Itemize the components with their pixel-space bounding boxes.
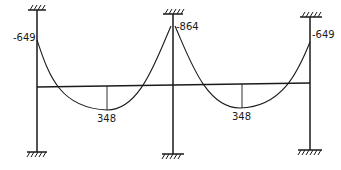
moment-label-left-midspan: 348 — [97, 113, 116, 124]
moment-label-middle-support: -864 — [176, 21, 199, 32]
moment-label-left-support: -649 — [13, 32, 36, 43]
top-fixed-support-right — [300, 12, 322, 17]
moment-label-right-midspan: 348 — [232, 111, 251, 122]
moment-label-right-support: -649 — [312, 29, 335, 40]
top-fixed-support-left — [28, 5, 46, 10]
top-fixed-support-middle — [163, 9, 184, 14]
moment-curve-left-span — [37, 26, 171, 110]
moment-curve-right-span — [175, 26, 310, 108]
bending-moment-diagram: -649 -864 -649 348 348 — [0, 0, 341, 170]
bottom-fixed-support-left — [27, 152, 47, 157]
bottom-fixed-support-right — [298, 150, 322, 155]
bottom-fixed-support-middle — [162, 154, 184, 159]
